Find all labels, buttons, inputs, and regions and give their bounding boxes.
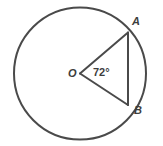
point-label-a: A <box>132 16 140 27</box>
point-label-o: O <box>68 68 77 79</box>
central-angle-label: 72° <box>93 67 110 78</box>
point-label-b: B <box>134 105 142 116</box>
geometry-figure: O A B 72° <box>0 0 163 146</box>
